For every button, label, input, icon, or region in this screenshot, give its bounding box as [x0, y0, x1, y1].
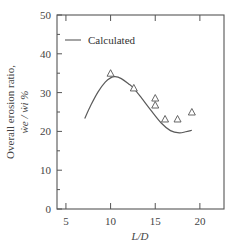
triangle-marker-icon	[188, 109, 195, 116]
legend-label: Calculated	[88, 34, 136, 46]
y-tick-label: 30	[40, 87, 52, 99]
x-axis-title: L/D	[130, 230, 148, 242]
y-tick-label: 0	[46, 203, 52, 215]
erosion-ratio-chart: 01020304050 5101520 Calculated L/D Overa…	[0, 0, 236, 252]
y-tick-label: 20	[40, 125, 52, 137]
triangle-marker-icon	[107, 70, 114, 77]
triangle-marker-icon	[152, 95, 159, 102]
x-tick-label: 20	[194, 215, 206, 227]
y-tick-label: 10	[40, 164, 52, 176]
series-layer	[85, 70, 196, 133]
plot-border	[57, 15, 224, 209]
triangle-marker-icon	[162, 115, 169, 122]
calculated-curve	[85, 77, 192, 133]
plot-frame	[57, 15, 224, 209]
y-axis: 01020304050	[40, 9, 62, 215]
x-axis: 5101520	[63, 15, 206, 227]
x-tick-label: 10	[105, 215, 117, 227]
triangle-marker-icon	[152, 102, 159, 109]
x-tick-label: 15	[150, 215, 162, 227]
x-tick-label: 5	[63, 215, 69, 227]
y-axis-title: Overall erosion ratio, ẇe / ẇi %	[4, 65, 30, 159]
y-tick-label: 40	[40, 48, 52, 60]
y-axis-title-line2: ẇe / ẇi %	[18, 90, 30, 133]
y-axis-title-line1: Overall erosion ratio,	[4, 65, 16, 159]
triangle-marker-icon	[174, 115, 181, 122]
legend: Calculated	[65, 34, 136, 46]
y-tick-label: 50	[40, 9, 52, 21]
